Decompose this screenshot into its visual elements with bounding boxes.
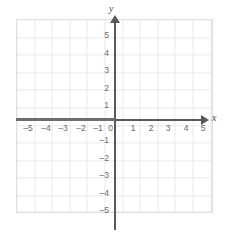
y-tick-label-3: 3 [95, 66, 109, 75]
x-tick-label-5: 5 [195, 124, 211, 133]
y-tick-label-5: 5 [95, 31, 109, 40]
x-tick-label-3: 3 [160, 124, 176, 133]
y-tick-label-2: 2 [95, 84, 109, 93]
x-tick-label-2: 2 [143, 124, 159, 133]
y-axis-line [114, 22, 116, 230]
x-axis-label: x [212, 113, 216, 123]
y-tick-label-neg5: –5 [95, 206, 109, 215]
x-tick-label-1: 1 [125, 124, 141, 133]
y-tick-label-neg1: –1 [95, 136, 109, 145]
x-tick-label-neg1: –1 [90, 124, 106, 133]
x-tick-label-neg5: –5 [20, 124, 36, 133]
y-axis-arrow-icon [110, 15, 120, 23]
coordinate-plane-figure: y x 0 –5 –4 –3 –2 –1 1 2 3 4 5 5 4 3 2 1… [0, 0, 225, 239]
y-tick-label-neg4: –4 [95, 189, 109, 198]
x-tick-label-4: 4 [178, 124, 194, 133]
y-tick-label-1: 1 [95, 101, 109, 110]
x-tick-label-neg4: –4 [38, 124, 54, 133]
plotted-ray [16, 118, 115, 121]
x-tick-label-neg2: –2 [73, 124, 89, 133]
x-tick-label-neg3: –3 [55, 124, 71, 133]
y-axis-label: y [109, 4, 113, 14]
y-tick-label-4: 4 [95, 49, 109, 58]
y-tick-label-neg2: –2 [95, 154, 109, 163]
y-tick-label-neg3: –3 [95, 171, 109, 180]
